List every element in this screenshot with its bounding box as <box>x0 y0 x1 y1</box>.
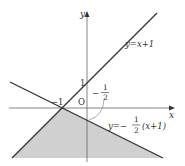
intercept-pointer <box>89 100 104 120</box>
line-2-frac-num: 1 <box>134 115 139 124</box>
line-1-equation-label: y=x+1 <box>124 39 154 49</box>
intercept-label-den: 2 <box>103 93 108 102</box>
shaded-region <box>12 108 163 158</box>
y-axis-arrow-icon <box>85 11 90 17</box>
line-2-equation-prefix: y=− <box>107 121 127 131</box>
origin-label: O <box>78 97 85 107</box>
intercept-label-minus: − <box>92 88 99 98</box>
line-2-frac-den: 2 <box>134 126 139 135</box>
intercept-label-num: 1 <box>103 83 108 92</box>
tick-label-y-one: 1 <box>80 78 85 88</box>
x-axis-label: x <box>169 110 174 120</box>
graph-canvas: y x O −1 1 − 1 2 y=x+1 y=− 1 2 (x+1) <box>0 0 185 166</box>
y-axis-label: y <box>79 9 86 19</box>
tick-label-x-neg-one: −1 <box>51 97 64 107</box>
line-2-equation-suffix: (x+1) <box>142 121 166 131</box>
